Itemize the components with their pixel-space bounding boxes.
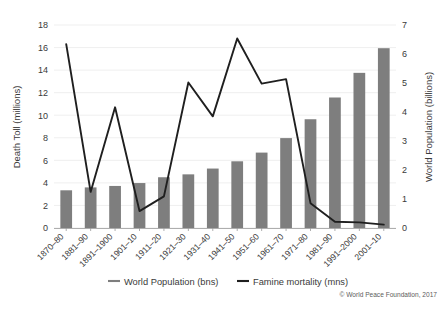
bar-1961–70 <box>280 138 292 228</box>
y-right-tick-3: 3 <box>402 136 407 146</box>
y-left-tick-18: 18 <box>38 20 48 30</box>
bar-1971–80 <box>305 119 317 228</box>
bar-1911–20 <box>158 177 170 228</box>
bar-1881–90 <box>85 187 97 228</box>
y-right-tick-1: 1 <box>402 194 407 204</box>
famine-mortality-chart: 024681012141618 01234567 1870–801881–901… <box>0 0 447 318</box>
y-right-tick-6: 6 <box>402 49 407 59</box>
y-right-tick-5: 5 <box>402 78 407 88</box>
bar-1891–1900 <box>109 186 121 228</box>
y-left-tick-0: 0 <box>43 223 48 233</box>
y-right-tick-0: 0 <box>402 223 407 233</box>
legend-label-world-population: World Population (bns) <box>124 277 218 287</box>
bar-1951–60 <box>256 153 268 228</box>
bar-2001–10 <box>378 48 390 228</box>
legend-label-famine-mortality: Famine mortality (mns) <box>253 277 348 287</box>
y-left-tick-16: 16 <box>38 43 48 53</box>
bar-1921–30 <box>182 174 194 228</box>
y-left-tick-12: 12 <box>38 88 48 98</box>
bar-1991–2000 <box>353 73 365 228</box>
y-left-tick-8: 8 <box>43 133 48 143</box>
y-right-tick-7: 7 <box>402 20 407 30</box>
y-axis-right-title: World Population (billions) <box>423 72 434 182</box>
bar-1931–40 <box>207 169 219 228</box>
y-left-tick-2: 2 <box>43 201 48 211</box>
y-left-tick-6: 6 <box>43 156 48 166</box>
bar-1981–90 <box>329 98 341 229</box>
bar-1870–80 <box>60 190 72 228</box>
y-left-tick-10: 10 <box>38 111 48 121</box>
chart-canvas: 024681012141618 01234567 1870–801881–901… <box>0 0 447 318</box>
copyright-credit: © World Peace Foundation, 2017 <box>340 291 438 298</box>
y-right-tick-2: 2 <box>402 165 407 175</box>
y-left-tick-14: 14 <box>38 65 48 75</box>
y-left-tick-4: 4 <box>43 178 48 188</box>
y-right-tick-4: 4 <box>402 107 407 117</box>
bar-1941–50 <box>231 161 243 228</box>
y-axis-left-title: Death Toll (millions) <box>11 86 22 169</box>
